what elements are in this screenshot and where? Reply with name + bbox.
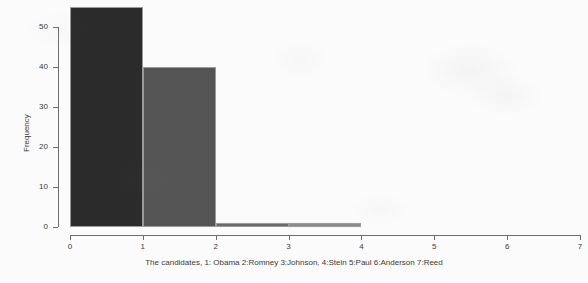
histogram-bar: [216, 223, 289, 227]
y-axis-tick: [53, 107, 58, 108]
x-axis-tick: [580, 235, 581, 240]
y-axis-tick: [53, 27, 58, 28]
x-axis-line: [70, 235, 580, 236]
x-axis-tick: [70, 235, 71, 240]
y-axis-line: [58, 27, 59, 227]
histogram-bar: [143, 67, 216, 227]
y-axis-tick: [53, 147, 58, 148]
x-axis-tick-label: 0: [50, 242, 90, 252]
x-axis-tick-label: 5: [414, 242, 454, 252]
histogram-bar: [70, 7, 143, 227]
x-axis-tick: [143, 235, 144, 240]
y-axis-tick-label: 30: [24, 102, 48, 112]
x-axis-tick: [216, 235, 217, 240]
y-axis-tick: [53, 227, 58, 228]
y-axis-tick: [53, 67, 58, 68]
y-axis-tick-label: 10: [24, 182, 48, 192]
x-axis-tick: [507, 235, 508, 240]
y-axis-tick-label: 40: [24, 62, 48, 72]
x-axis-tick: [361, 235, 362, 240]
histogram-bar: [289, 223, 362, 227]
x-axis-tick-label: 7: [560, 242, 588, 252]
y-axis-title: Frequency: [22, 114, 31, 152]
x-axis-tick: [434, 235, 435, 240]
x-axis-tick-label: 2: [196, 242, 236, 252]
histogram-figure: 0123456701020304050 Frequency The candid…: [0, 0, 588, 283]
y-axis-tick-label: 0: [24, 222, 48, 232]
x-axis-title: The candidates, 1: Obama 2:Romney 3:John…: [0, 258, 588, 267]
y-axis-tick-label: 50: [24, 22, 48, 32]
plot-area: 0123456701020304050: [0, 0, 588, 283]
x-axis-tick-label: 3: [269, 242, 309, 252]
y-axis-tick: [53, 187, 58, 188]
x-axis-tick-label: 1: [123, 242, 163, 252]
x-axis-tick-label: 6: [487, 242, 527, 252]
x-axis-tick: [289, 235, 290, 240]
x-axis-tick-label: 4: [341, 242, 381, 252]
